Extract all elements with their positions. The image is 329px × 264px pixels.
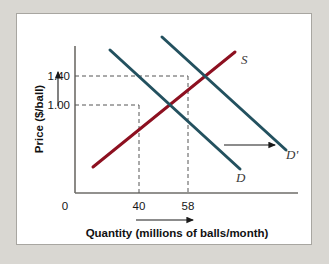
y-tick-label-140: 1.40 — [48, 70, 70, 82]
supply-demand-chart: S D D' 1.40 1.00 40 58 0 Price ($/ball) … — [17, 14, 313, 246]
demand-curve-shifted — [162, 37, 286, 150]
demand-shifted-curve-label: D' — [285, 147, 298, 162]
x-tick-label-58: 58 — [182, 200, 195, 212]
y-tick-label-100: 1.00 — [48, 99, 70, 111]
supply-curve-label: S — [241, 52, 248, 67]
demand-curve-label: D — [235, 170, 246, 185]
x-tick-label-40: 40 — [133, 200, 146, 212]
supply-curve — [93, 52, 235, 167]
y-axis-title: Price ($/ball) — [33, 85, 45, 154]
demand-curve-original — [110, 50, 240, 169]
origin-label: 0 — [62, 200, 68, 212]
x-axis-title: Quantity (millions of balls/month) — [86, 227, 269, 239]
figure-panel: S D D' 1.40 1.00 40 58 0 Price ($/ball) … — [16, 13, 312, 245]
